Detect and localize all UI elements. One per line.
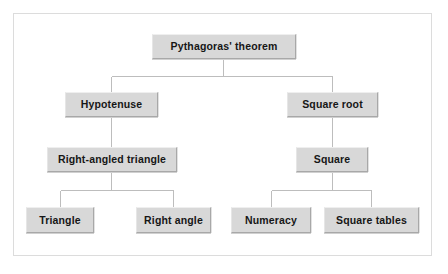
node-label: Right angle: [144, 215, 203, 226]
diagram-canvas: Pythagoras' theorem Hypotenuse Square ro…: [0, 0, 448, 274]
node-right-angle[interactable]: Right angle: [136, 207, 211, 233]
node-label: Hypotenuse: [81, 99, 143, 110]
node-triangle[interactable]: Triangle: [26, 207, 94, 233]
node-label: Square root: [302, 99, 363, 110]
node-label: Square tables: [336, 215, 407, 226]
node-numeracy[interactable]: Numeracy: [231, 207, 311, 233]
node-label: Numeracy: [245, 215, 297, 226]
node-label: Triangle: [39, 215, 80, 226]
node-right-angled-triangle[interactable]: Right-angled triangle: [47, 147, 177, 172]
node-label: Right-angled triangle: [58, 154, 166, 165]
node-square-tables[interactable]: Square tables: [324, 207, 419, 233]
node-square-root[interactable]: Square root: [287, 92, 378, 117]
node-square[interactable]: Square: [296, 147, 368, 172]
node-hypotenuse[interactable]: Hypotenuse: [65, 92, 158, 117]
node-label: Square: [314, 154, 351, 165]
node-pythagoras-theorem[interactable]: Pythagoras' theorem: [152, 34, 296, 59]
node-label: Pythagoras' theorem: [171, 41, 278, 52]
